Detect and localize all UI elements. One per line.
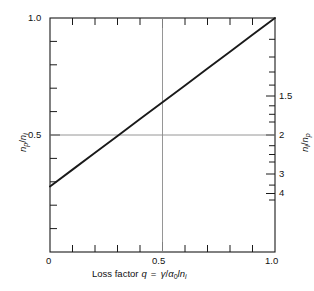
x-tick-label-1p0: 1.0 bbox=[265, 256, 278, 266]
y-right-numerator-sub: i bbox=[304, 145, 311, 147]
x-axis-title: Loss factorq=γ/α0lni bbox=[92, 269, 187, 280]
y-tick-label-1p0: 1.0 bbox=[28, 13, 41, 23]
x-tick-label-0: 0 bbox=[46, 256, 51, 266]
y-axis-right-title: ni/np bbox=[300, 133, 311, 152]
x-axis-title-text: Loss factor bbox=[92, 268, 138, 279]
right-tick-label-3: 3 bbox=[279, 169, 284, 179]
chart-canvas bbox=[0, 0, 314, 291]
right-tick-label-4: 4 bbox=[279, 188, 284, 198]
y-left-numerator: n bbox=[17, 147, 28, 152]
y-right-numerator: n bbox=[299, 147, 310, 152]
x-axis-title-n-sub: i bbox=[185, 273, 187, 280]
y-right-slash: / bbox=[299, 143, 310, 146]
y-right-denominator-sub: p bbox=[304, 133, 311, 137]
y-tick-label-0p5: 0.5 bbox=[28, 130, 41, 140]
x-axis-title-equals: = bbox=[151, 268, 157, 279]
x-axis-title-symbol: q bbox=[141, 268, 146, 279]
y-left-denominator-sub: i bbox=[22, 133, 29, 135]
y-left-slash: / bbox=[17, 140, 28, 143]
x-tick-label-0p5: 0.5 bbox=[152, 256, 165, 266]
figure-root: 0 0.5 1.0 0.5 1.0 1.5 2 3 4 np/ni ni/np … bbox=[0, 0, 314, 291]
y-axis-left-title: np/ni bbox=[18, 133, 29, 152]
y-left-denominator: n bbox=[17, 135, 28, 140]
y-left-numerator-sub: p bbox=[22, 143, 29, 147]
right-tick-label-2: 2 bbox=[279, 130, 284, 140]
y-right-denominator: n bbox=[299, 137, 310, 142]
right-tick-label-1p5: 1.5 bbox=[279, 91, 292, 101]
